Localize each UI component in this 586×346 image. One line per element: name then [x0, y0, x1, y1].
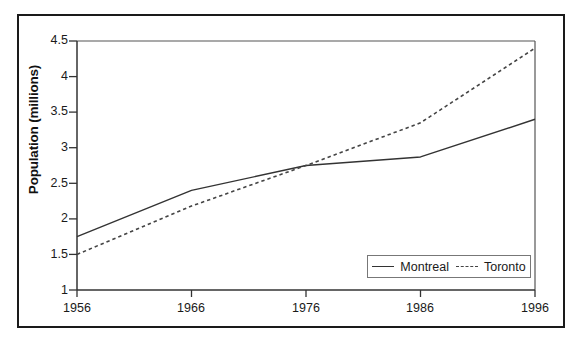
data-line-montreal [77, 119, 535, 236]
chart-plot-svg [0, 0, 586, 346]
x-axis-ticks [77, 290, 535, 297]
data-line-toronto [77, 48, 535, 254]
legend-entry-toronto: Toronto [456, 260, 526, 274]
legend-entry-montreal: Montreal [372, 260, 449, 274]
legend-label-montreal: Montreal [400, 260, 449, 274]
line-chart: Population (millions) 4.5 4 3.5 3 2.5 2 … [0, 0, 586, 346]
legend-label-toronto: Toronto [484, 260, 526, 274]
chart-legend: Montreal Toronto [367, 255, 531, 278]
solid-line-icon [372, 266, 394, 267]
y-axis-ticks [69, 41, 77, 290]
dashed-line-icon [456, 266, 478, 267]
